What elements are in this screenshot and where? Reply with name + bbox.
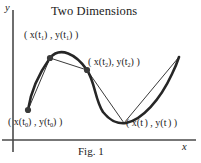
point-marker-t1 [47, 55, 53, 61]
parametric-curve-plot [0, 0, 201, 163]
point-label-t0: ( x(t0) , y(t0) ) [8, 117, 62, 128]
figure-two-dimensions: Two Dimensions y x ( x(t1) , y(t1) ) ( x… [0, 0, 201, 163]
point-marker-t2 [84, 67, 90, 73]
figure-caption: Fig. 1 [78, 146, 104, 157]
y-axis-label: y [5, 3, 10, 14]
point-label-t2: ( x(t2), y(t2) ) [88, 57, 140, 68]
x-axis-label: x [182, 142, 187, 153]
point-marker-t0 [25, 107, 31, 113]
page-title: Two Dimensions [51, 5, 137, 18]
point-label-tn: ( x(t ) , y(t ) ) [126, 118, 177, 129]
point-label-t1: ( x(t1) , y(t1) ) [24, 30, 78, 41]
